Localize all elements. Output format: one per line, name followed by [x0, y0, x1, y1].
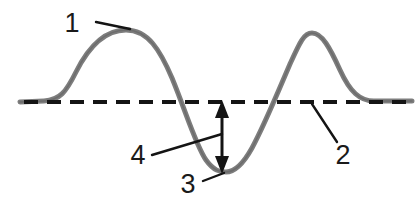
callout-1: 1 [64, 8, 130, 38]
callout-2-leader-line [312, 104, 337, 142]
wave-diagram: 1 2 3 4 [0, 0, 420, 199]
callout-3: 3 [180, 169, 224, 199]
callout-2-label: 2 [335, 140, 350, 170]
callout-3-label: 3 [180, 169, 195, 199]
callout-1-label: 1 [64, 8, 79, 38]
callout-2: 2 [312, 104, 351, 170]
callout-4-leader-line [152, 134, 222, 155]
wave-diagram-canvas: 1 2 3 4 [0, 0, 420, 199]
callout-1-leader-line [96, 22, 130, 29]
amplitude-double-arrow [215, 100, 229, 174]
callout-3-leader-line [203, 173, 224, 181]
callout-4-label: 4 [130, 140, 145, 170]
